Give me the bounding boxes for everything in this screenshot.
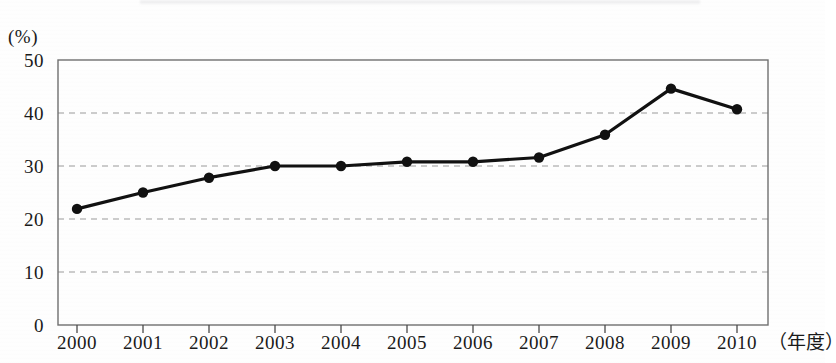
data-point-2008 [600,130,610,140]
data-point-2004 [336,161,346,171]
data-point-2003 [270,161,280,171]
plot-frame [58,60,768,325]
data-point-2005 [402,157,412,167]
gridlines [58,113,768,272]
data-point-2000 [72,204,82,214]
data-point-2009 [666,83,676,93]
data-point-2010 [732,104,742,114]
data-point-2007 [534,152,544,162]
series-line [77,89,737,209]
data-point-2001 [138,187,148,197]
x-axis-ticks [77,325,737,333]
data-point-2006 [468,157,478,167]
series-markers [72,83,742,214]
data-point-2002 [204,173,214,183]
